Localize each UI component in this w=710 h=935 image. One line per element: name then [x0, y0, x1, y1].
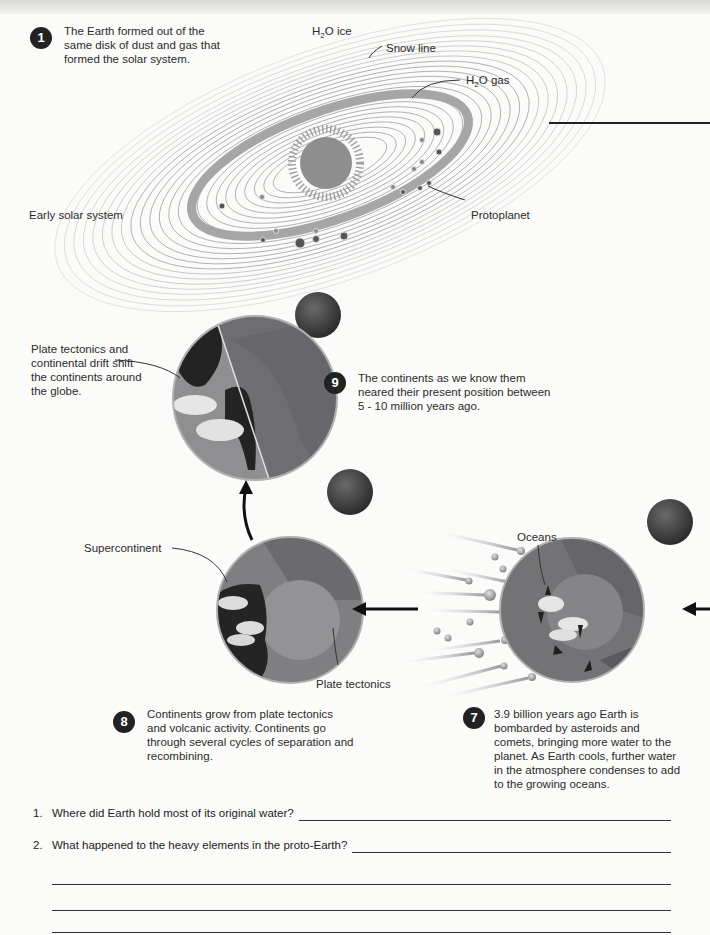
question-1-answer-line[interactable] — [299, 820, 671, 821]
earth-supercontinent-globe — [208, 537, 370, 690]
step-1-badge: 1 — [30, 27, 52, 49]
step-8-badge: 8 — [113, 711, 135, 733]
supercontinent-label: Supercontinent — [84, 541, 161, 555]
plate-tectonics-drift-callout: Plate tectonics and continental drift sh… — [31, 342, 161, 398]
protoplanet-label: Protoplanet — [471, 208, 530, 222]
question-2-answer-line[interactable] — [352, 852, 671, 853]
question-2-answer-line-3[interactable] — [52, 910, 671, 911]
question-2-answer-line-2[interactable] — [52, 884, 671, 885]
oceans-label: Oceans — [517, 530, 557, 544]
question-2-answer-line-4[interactable] — [52, 932, 671, 933]
sun-icon — [292, 129, 360, 197]
question-2-number: 2. — [33, 839, 43, 851]
diagram-graphics — [0, 0, 710, 935]
question-1-number: 1. — [33, 807, 43, 819]
moon-icon — [647, 499, 693, 545]
moon-icon — [327, 469, 373, 515]
h2o-gas-label: H2O gas — [466, 73, 509, 92]
step-7-text: 3.9 billion years ago Earth is bombarded… — [494, 707, 709, 791]
step-8-text: Continents grow from plate tectonics and… — [147, 707, 367, 763]
h2o-ice-label: H2O ice — [312, 24, 352, 43]
supercontinent-leader — [172, 548, 227, 582]
earth-oceans-globe — [500, 537, 650, 690]
question-2-text: What happened to the heavy elements in t… — [52, 839, 347, 851]
arrow-up-icon — [244, 487, 252, 540]
step-9-text: The continents as we know them neared th… — [358, 371, 578, 413]
step-1-text: The Earth formed out of the same disk of… — [64, 24, 264, 66]
snow-line-label: Snow line — [386, 41, 436, 55]
plate-tectonics-label: Plate tectonics — [316, 677, 391, 691]
early-solar-system-label: Early solar system — [29, 208, 123, 222]
question-1-text: Where did Earth hold most of its origina… — [52, 807, 294, 819]
step-9-badge: 9 — [324, 372, 346, 394]
step-7-badge: 7 — [463, 707, 485, 729]
